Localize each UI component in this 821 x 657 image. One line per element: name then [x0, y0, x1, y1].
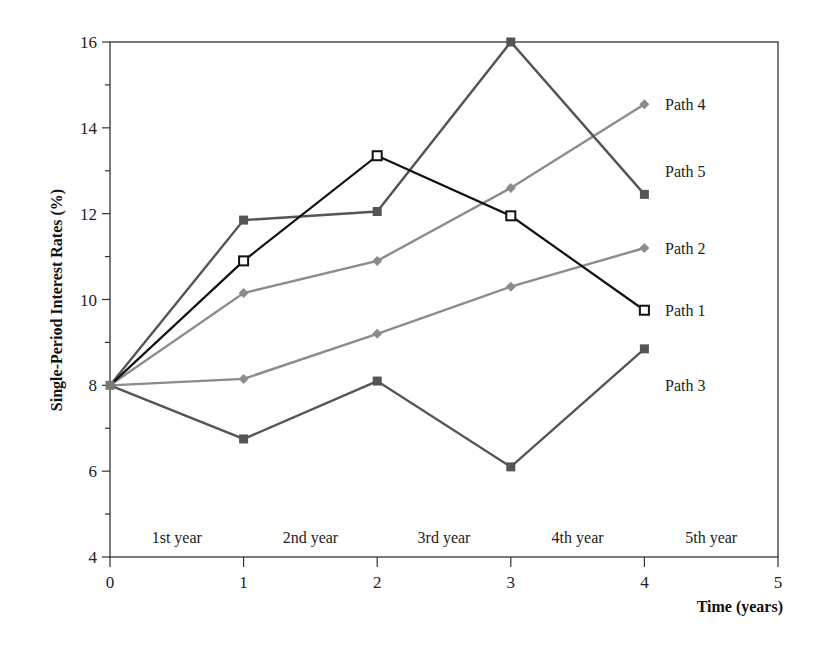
period-label: 4th year: [552, 529, 605, 547]
y-tick-label: 14: [80, 119, 98, 138]
plot-border: [110, 42, 778, 557]
diamond-marker-icon: [506, 282, 516, 292]
square-marker-icon: [506, 462, 515, 471]
series-path-3: [110, 344, 649, 471]
x-axis: 012345: [106, 557, 783, 592]
square-marker-icon: [373, 377, 382, 386]
series-label: Path 5: [665, 163, 705, 180]
x-tick-label: 0: [106, 573, 115, 592]
x-tick-label: 2: [373, 573, 382, 592]
x-axis-title: Time (years): [697, 598, 783, 616]
interest-rate-paths-chart: 46810121416 012345 1st year2nd year3rd y…: [0, 0, 821, 657]
period-label: 3rd year: [418, 529, 472, 547]
open-square-marker-icon: [506, 211, 515, 220]
diamond-marker-icon: [639, 243, 649, 253]
period-labels: 1st year2nd year3rd year4th year5th year: [152, 529, 738, 547]
square-marker-icon: [239, 216, 248, 225]
square-marker-icon: [239, 434, 248, 443]
square-marker-icon: [373, 207, 382, 216]
x-tick-label: 3: [507, 573, 516, 592]
series-label: Path 4: [665, 96, 705, 113]
x-tick-label: 1: [239, 573, 248, 592]
y-tick-label: 12: [80, 205, 97, 224]
series-label: Path 1: [665, 302, 705, 319]
x-tick-label: 5: [774, 573, 783, 592]
y-axis: 46810121416: [80, 33, 110, 567]
series-labels: Path 4Path 5Path 2Path 3Path 1: [665, 96, 705, 394]
plot-frame: [110, 42, 778, 557]
series-label: Path 2: [665, 240, 705, 257]
series-path-2: [110, 243, 649, 385]
open-square-marker-icon: [239, 256, 248, 265]
series-line: [110, 104, 644, 385]
origin-marker-icon: [106, 381, 115, 390]
y-tick-label: 4: [89, 548, 98, 567]
diamond-marker-icon: [239, 374, 249, 384]
square-marker-icon: [640, 190, 649, 199]
y-tick-label: 10: [80, 291, 97, 310]
square-marker-icon: [640, 344, 649, 353]
series-line: [110, 349, 644, 467]
diamond-marker-icon: [372, 329, 382, 339]
series-line: [110, 248, 644, 385]
period-label: 1st year: [152, 529, 203, 547]
y-axis-title: Single-Period Interest Rates (%): [48, 189, 66, 411]
series-path-4: [110, 99, 649, 385]
square-marker-icon: [506, 38, 515, 47]
y-tick-label: 6: [89, 462, 98, 481]
period-label: 5th year: [685, 529, 738, 547]
open-square-marker-icon: [640, 306, 649, 315]
x-tick-label: 4: [640, 573, 649, 592]
period-label: 2nd year: [283, 529, 339, 547]
series-path-1: [110, 151, 649, 385]
series-lines: [106, 38, 650, 472]
y-tick-label: 16: [80, 33, 97, 52]
y-tick-label: 8: [89, 376, 98, 395]
open-square-marker-icon: [373, 151, 382, 160]
series-label: Path 3: [665, 377, 705, 394]
diamond-marker-icon: [372, 256, 382, 266]
